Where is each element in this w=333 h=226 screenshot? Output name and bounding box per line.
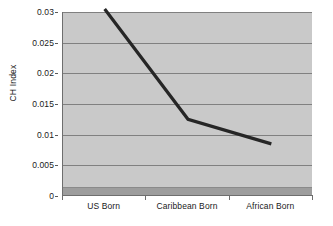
y-axis-tickmark-3	[55, 104, 58, 105]
x-axis-tick-labels: US BornCaribbean BornAfrican Born	[62, 201, 312, 217]
y-axis-tick-5: 0.025	[32, 38, 54, 48]
y-axis-tickmark-6	[55, 12, 58, 13]
y-axis-tick-0: 0	[49, 191, 54, 201]
y-axis-tickmark-0	[55, 196, 58, 197]
y-axis-tick-2: 0.01	[37, 130, 54, 140]
x-axis-label-1: Caribbean Born	[157, 201, 218, 211]
x-axis-tickmark-1	[145, 196, 146, 200]
x-axis-tickmark-0	[62, 196, 63, 200]
series-line-ch-index	[63, 12, 313, 196]
y-axis-tickmark-2	[55, 135, 58, 136]
y-axis-tick-labels: 00.0050.010.0150.020.0250.03	[12, 12, 58, 196]
y-axis-tick-1: 0.005	[32, 160, 54, 170]
x-axis-line	[62, 195, 313, 196]
x-axis-tickmark-3	[312, 196, 313, 200]
y-axis-tick-6: 0.03	[37, 7, 54, 17]
plot-area	[62, 12, 312, 196]
x-axis-tickmark-2	[229, 196, 230, 200]
y-axis-tick-3: 0.015	[32, 99, 54, 109]
y-axis-tickmark-4	[55, 73, 58, 74]
x-axis-label-2: African Born	[246, 201, 294, 211]
y-axis-tickmark-5	[55, 43, 58, 44]
line-chart: CH Index 00.0050.010.0150.020.0250.03 US…	[0, 0, 333, 226]
y-axis-tick-4: 0.02	[37, 68, 54, 78]
y-axis-tickmark-1	[55, 165, 58, 166]
x-axis-label-0: US Born	[87, 201, 120, 211]
